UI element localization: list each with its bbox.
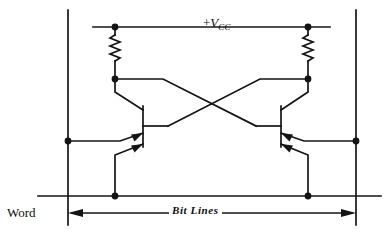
right-emitter-lead-lower: [281, 144, 308, 196]
left-collector-lead: [115, 79, 143, 110]
left-emitter-lead-lower: [115, 144, 143, 196]
junction-dot-left-wordline: [112, 193, 119, 200]
cross-couple-right-to-left: [168, 79, 308, 126]
junction-dot-right-collector: [305, 76, 312, 83]
left-emitter-arrow-lower: [131, 144, 143, 153]
junction-dot-right-wordline: [305, 193, 312, 200]
left-emitter-arrow-upper: [131, 133, 143, 142]
right-collector-lead: [281, 79, 308, 110]
word-line-label-line1: Word: [7, 206, 36, 220]
right-emitter-arrow-lower: [281, 144, 293, 153]
right-emitter-arrow-upper: [281, 133, 293, 142]
junction-dot-vcc-left: [112, 24, 119, 31]
bit-lines-arrow-left: [68, 209, 83, 217]
bit-lines-label: Bit Lines: [169, 205, 222, 217]
junction-dot-left-bitline: [65, 138, 72, 145]
junction-dot-right-bitline: [353, 138, 360, 145]
junction-dot-left-collector: [112, 76, 119, 83]
cross-couple-left-to-right: [115, 79, 256, 126]
left-emitter-lead-upper: [68, 133, 143, 141]
junction-dot-vcc-right: [305, 24, 312, 31]
left-resistor-zigzag: [110, 35, 120, 61]
right-emitter-lead-upper: [281, 133, 356, 141]
vcc-supply-label: +VCC: [190, 2, 231, 46]
word-line-label: Word Line: [7, 178, 36, 234]
bit-lines-arrow-right: [341, 209, 356, 217]
circuit-diagram-figure: +VCC Word Line Bit Lines: [0, 0, 387, 234]
vcc-subscript: CC: [218, 22, 230, 32]
right-resistor-zigzag: [303, 35, 313, 61]
